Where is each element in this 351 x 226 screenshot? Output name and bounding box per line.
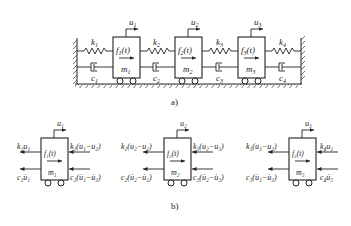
spring-k2 [140, 48, 175, 54]
disp-u1-label: u1 [129, 17, 137, 28]
fbd1-left-damper: c₁u̇₁ [17, 173, 30, 182]
free-body-3: u₃ f₃(t) m₃ k₃(u₃−u₂) k₄u₃ c₃(u̇₃−u̇₂) c… [246, 119, 338, 186]
spring-k3 [202, 48, 238, 54]
damper-c2-label: c2 [153, 73, 160, 84]
ground [75, 84, 302, 88]
disp-u2-label: u2 [191, 17, 199, 28]
fbd2-force: f₂(t) [167, 149, 179, 158]
damper-c3 [202, 63, 238, 71]
spring-k4 [265, 48, 301, 54]
disp-u3-label: u3 [254, 17, 262, 28]
damper-c1-label: c1 [91, 73, 98, 84]
fbd1-force: f₁(t) [44, 149, 56, 158]
mass-1 [113, 29, 140, 84]
fbd3-disp: u₃ [305, 119, 312, 128]
figure-b: u₁ f₁(t) m₁ k₁u₁ k₂(u₁−u₂) c₁u̇₁ c₂(u̇₁−… [17, 119, 338, 211]
mass-2 [175, 29, 202, 84]
fbd2-right-damper: c₃(u̇₂−u̇₃) [193, 173, 224, 182]
fbd2-left-damper: c₂(u̇₂−u̇₁) [121, 173, 152, 182]
fbd3-right-spring: k₄u₃ [320, 142, 333, 151]
free-body-2: u₂ f₂(t) m₂ k₂(u₂−u₁) k₃(u₂−u₃) c₂(u̇₂−u… [121, 119, 224, 186]
spring-k1 [77, 48, 113, 54]
mdof-diagram: u1 u2 u3 f1(t) f2(t) f3(t) m1 m2 m3 k1 k… [0, 0, 351, 226]
fbd2-mass: m₂ [171, 168, 180, 177]
fbd3-force: f₃(t) [292, 149, 304, 158]
fbd1-right-damper: c₂(u̇₁−u̇₂) [70, 173, 101, 182]
spring-k3-label: k3 [216, 37, 223, 48]
fbd2-left-spring: k₂(u₂−u₁) [121, 142, 152, 151]
force-f3-label: f3(t) [241, 45, 255, 56]
force-f1-label: f1(t) [116, 45, 130, 56]
right-wall [301, 36, 305, 84]
left-wall [73, 38, 77, 84]
fbd1-left-spring: k₁u₁ [17, 142, 30, 151]
fbd1-disp: u₁ [57, 119, 64, 128]
fbd2-disp: u₂ [180, 119, 187, 128]
damper-c3-label: c3 [216, 73, 223, 84]
fbd3-left-damper: c₃(u̇₃−u̇₂) [246, 173, 277, 182]
spring-k2-label: k2 [153, 37, 160, 48]
fbd3-right-damper: c₄u̇₃ [320, 173, 333, 182]
figure-a: u1 u2 u3 f1(t) f2(t) f3(t) m1 m2 m3 k1 k… [73, 17, 305, 107]
caption-b: b) [171, 201, 179, 211]
fbd3-left-spring: k₃(u₃−u₂) [246, 142, 277, 151]
fbd2-right-spring: k₃(u₂−u₃) [193, 142, 224, 151]
free-body-1: u₁ f₁(t) m₁ k₁u₁ k₂(u₁−u₂) c₁u̇₁ c₂(u̇₁−… [17, 119, 101, 186]
caption-a: a) [171, 97, 178, 107]
spring-k1-label: k1 [91, 37, 98, 48]
damper-c2 [140, 63, 175, 71]
fbd1-mass: m₁ [48, 168, 57, 177]
damper-c4 [265, 63, 301, 71]
spring-k4-label: k4 [279, 37, 286, 48]
fbd3-mass: m₃ [296, 168, 305, 177]
damper-c4-label: c4 [279, 73, 286, 84]
fbd1-right-spring: k₂(u₁−u₂) [70, 142, 101, 151]
damper-c1 [77, 63, 113, 71]
force-f2-label: f2(t) [178, 45, 192, 56]
mass-3 [238, 29, 265, 84]
